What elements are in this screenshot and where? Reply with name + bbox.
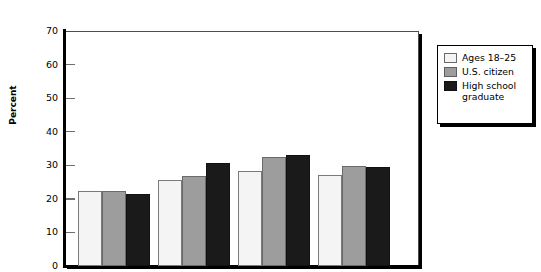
bar bbox=[126, 194, 150, 266]
legend-item-label: U.S. citizen bbox=[462, 66, 514, 77]
white-swatch-icon bbox=[444, 53, 457, 63]
bar bbox=[262, 157, 286, 266]
bar bbox=[78, 191, 102, 266]
legend-item: U.S. citizen bbox=[444, 66, 532, 77]
chart-legend: Ages 18–25 U.S. citizen High school grad… bbox=[437, 45, 533, 124]
bar bbox=[102, 191, 126, 266]
bars-layer bbox=[0, 0, 541, 272]
bar bbox=[238, 171, 262, 266]
bar bbox=[366, 167, 390, 266]
legend-item-label: Ages 18–25 bbox=[462, 52, 516, 63]
black-swatch-icon bbox=[444, 81, 457, 91]
bar bbox=[182, 176, 206, 266]
bar-chart: Percent 706050403020100 Ages 18–25 U.S. … bbox=[0, 0, 541, 272]
gray-swatch-icon bbox=[444, 67, 457, 77]
bar bbox=[318, 175, 342, 266]
legend-item-label: High school graduate bbox=[462, 80, 516, 102]
bar bbox=[158, 180, 182, 266]
legend-item: High school graduate bbox=[444, 80, 532, 102]
bar bbox=[206, 163, 230, 266]
legend-item: Ages 18–25 bbox=[444, 52, 532, 63]
bar bbox=[342, 166, 366, 266]
bar bbox=[286, 155, 310, 266]
